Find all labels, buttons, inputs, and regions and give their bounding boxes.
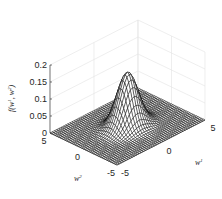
z-tick-label: 0.05 <box>29 111 47 121</box>
w1-tick-label: -5 <box>121 168 129 178</box>
z-tick-label: 0.15 <box>29 77 47 87</box>
z-tick-label: 0.1 <box>34 94 47 104</box>
w2-tick-label: -5 <box>107 168 115 178</box>
surface-plot: 00.050.10.150.2-505-505 f(w1, w2) w2 w1 <box>0 0 222 199</box>
gaussian-surface-mesh <box>50 72 205 165</box>
z-axis-label: f(w1, w2) <box>7 84 16 112</box>
w1-tick-label: 0 <box>166 146 171 156</box>
w2-tick-label: 5 <box>41 136 46 146</box>
w1-tick-label: 5 <box>210 123 215 133</box>
y-axis-label-w2: w2 <box>74 174 82 183</box>
z-tick-label: 0.2 <box>34 60 47 70</box>
w2-tick-label: 0 <box>75 152 80 162</box>
x-axis-label-w1: w1 <box>195 158 203 167</box>
